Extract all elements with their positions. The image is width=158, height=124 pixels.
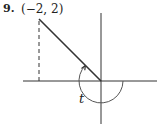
problem-number: 9.: [3, 3, 14, 14]
angle-label: t: [79, 92, 84, 105]
point-label: (−2, 2): [21, 3, 63, 15]
terminal-side: [39, 19, 101, 81]
